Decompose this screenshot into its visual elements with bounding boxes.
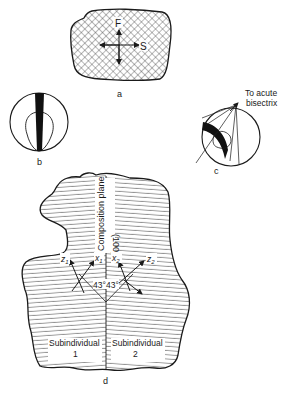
subindividual-2-label: Subindividual <box>112 338 163 348</box>
acute-bisectrix-label-2: bisectrix <box>246 98 278 108</box>
conoscopic-field-c <box>202 108 260 166</box>
ray-5 <box>236 105 239 164</box>
panel-b: b <box>10 93 68 167</box>
panel-c-label: c <box>214 166 219 176</box>
acute-bisectrix-label-1: To acute <box>245 88 277 98</box>
subindividual-2-number: 2 <box>133 349 138 359</box>
panel-d: Composition plane (100) z1 x1 x2 z2 43° … <box>15 170 201 386</box>
panel-a-label: a <box>117 89 122 99</box>
angle-left-label: 43° <box>93 280 106 290</box>
angle-right-label: 43° <box>106 280 119 290</box>
isogyre-c <box>202 122 228 159</box>
twinning-diagram: F S a b To acute bisectrix c Com <box>0 0 285 394</box>
panel-a: F S a <box>71 9 171 99</box>
panel-d-label: d <box>103 376 108 386</box>
panel-c: To acute bisectrix c <box>196 88 278 176</box>
f-axis-label: F <box>115 18 121 29</box>
panel-b-label: b <box>37 157 42 167</box>
plane-index-label: (100) <box>111 234 121 255</box>
ray-4 <box>230 105 236 161</box>
subindividual-1-number: 1 <box>73 349 78 359</box>
isogyre-b <box>35 93 44 151</box>
s-axis-label: S <box>140 41 147 52</box>
composition-plane-label: Composition plane <box>96 176 106 251</box>
subindividual-1-label: Subindividual <box>49 338 100 348</box>
